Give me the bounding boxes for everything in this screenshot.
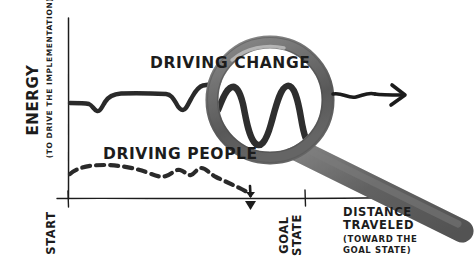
x-tick-label-goal-state: GOAL	[277, 216, 291, 254]
x-axis-label-line1: DISTANCE	[343, 205, 412, 219]
driving-people-curve	[70, 165, 256, 210]
series-label-driving-change: DRIVING CHANGE	[150, 54, 310, 72]
x-tick-label-start: START	[44, 211, 58, 254]
x-axis-label-line2: TRAVELED	[343, 218, 414, 232]
x-axis-sublabel-line1: (TOWARD THE	[343, 234, 417, 244]
driving-people-line	[70, 165, 247, 192]
figure-canvas: ENERGY (TO DRIVE THE IMPLEMENTATION) DRI…	[0, 0, 475, 267]
series-label-driving-people: DRIVING PEOPLE	[103, 145, 258, 163]
curve-continues-arrow-icon	[333, 85, 405, 105]
y-axis-label-main: ENERGY	[24, 64, 42, 136]
x-tick-goal-state	[305, 190, 306, 206]
x-tick-label-goal-state-line2: STATE	[290, 214, 304, 256]
x-tick-start	[68, 191, 69, 207]
x-axis-sublabel-line2: GOAL STATE)	[343, 245, 411, 255]
y-axis-label-sub: (TO DRIVE THE IMPLEMENTATION)	[45, 0, 54, 158]
hand-drawn-chart: ENERGY (TO DRIVE THE IMPLEMENTATION) DRI…	[0, 0, 475, 267]
x-axis-line	[57, 198, 404, 199]
